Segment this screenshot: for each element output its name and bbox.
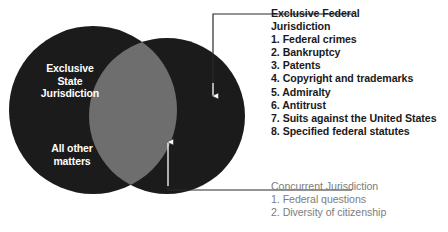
list-item: 3. Patents xyxy=(271,59,436,72)
venn-diagram-figure: Exclusive State Jurisdiction All other m… xyxy=(0,0,448,232)
list-item: 6. Antitrust xyxy=(271,99,436,112)
concurrent-jurisdiction-callout: Concurrent Jurisdiction 1. Federal quest… xyxy=(271,180,386,219)
list-item: 7. Suits against the United States xyxy=(271,112,436,125)
list-item: 5. Admiralty xyxy=(271,86,436,99)
federal-callout-heading-line-2: Jurisdiction xyxy=(271,20,436,33)
concurrent-jurisdiction-list: 1. Federal questions 2. Diversity of cit… xyxy=(271,193,386,219)
list-item: 2. Bankruptcy xyxy=(271,46,436,59)
federal-jurisdiction-list: 1. Federal crimes 2. Bankruptcy 3. Paten… xyxy=(271,33,436,138)
list-item: 1. Federal questions xyxy=(271,193,386,206)
list-item: 8. Specified federal statutes xyxy=(271,125,436,138)
list-item: 2. Diversity of citizenship xyxy=(271,206,386,219)
list-item: 4. Copyright and trademarks xyxy=(271,72,436,85)
concurrent-callout-heading: Concurrent Jurisdiction xyxy=(271,180,386,193)
federal-callout-heading-line-1: Exclusive Federal xyxy=(271,7,436,20)
list-item: 1. Federal crimes xyxy=(271,33,436,46)
exclusive-federal-jurisdiction-callout: Exclusive Federal Jurisdiction 1. Federa… xyxy=(271,7,436,138)
